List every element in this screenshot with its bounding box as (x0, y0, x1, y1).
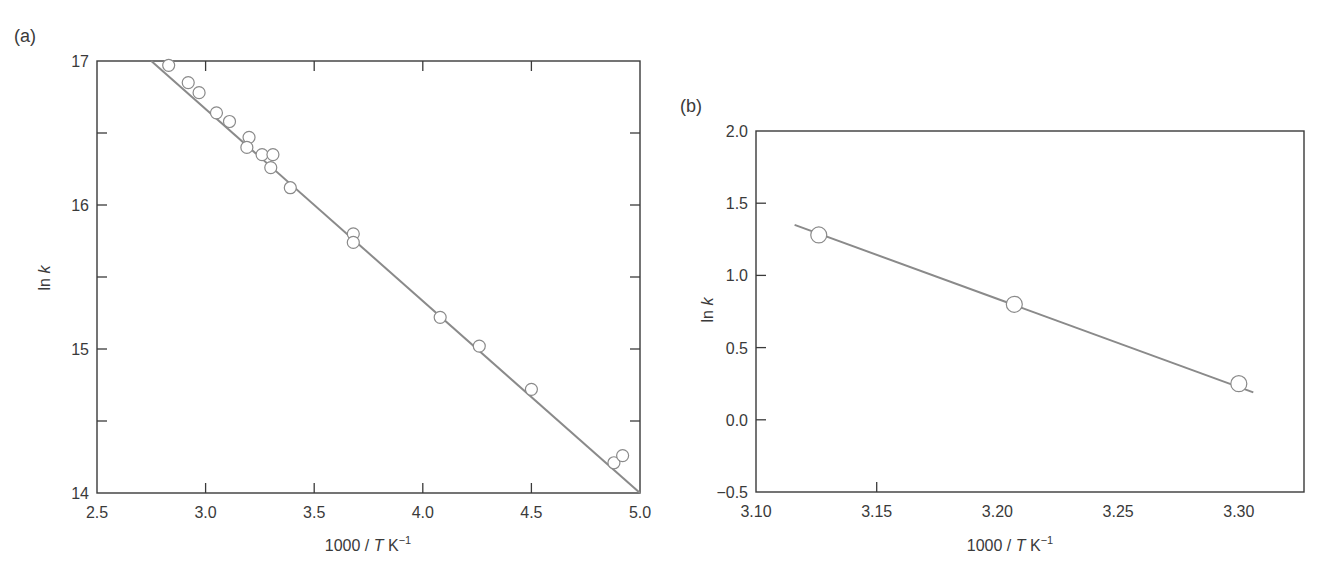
y-tick-label: 2.0 (726, 123, 748, 140)
data-point (1006, 296, 1022, 312)
data-point (284, 182, 296, 194)
y-tick-label: 17 (71, 53, 89, 70)
data-point (193, 87, 205, 99)
data-point (163, 59, 175, 71)
y-tick-label: 1.0 (726, 267, 748, 284)
y-tick-label: 1.5 (726, 195, 748, 212)
data-point (241, 141, 253, 153)
x-tick-label: 2.5 (86, 504, 108, 521)
data-point (617, 450, 629, 462)
data-point (525, 383, 537, 395)
data-point (182, 77, 194, 89)
x-tick-label: 4.5 (520, 504, 542, 521)
fit-line (795, 225, 1254, 393)
y-tick-label: 0.0 (726, 412, 748, 429)
data-point (210, 107, 222, 119)
x-tick-label: 5.0 (629, 504, 651, 521)
x-tick-label: 3.5 (303, 504, 325, 521)
data-point (811, 227, 827, 243)
panel-label-b: (b) (680, 96, 702, 116)
x-tick-label: 3.0 (194, 504, 216, 521)
data-point (256, 149, 268, 161)
panel-label-a: (a) (14, 26, 36, 46)
x-axis-title-b: 1000 / T K−1 (967, 534, 1053, 554)
y-axis-title-a: ln k (36, 265, 53, 291)
chart-panel-a: (a) 2.53.03.54.04.55.014151617 1000 / T … (14, 26, 651, 554)
y-tick-label: 16 (71, 197, 89, 214)
x-axis-title-a: 1000 / T K−1 (325, 534, 411, 554)
x-tick-label: 3.10 (740, 503, 771, 520)
axes-frame (97, 61, 640, 493)
data-point (473, 340, 485, 352)
data-point (223, 115, 235, 127)
plot-area-b: 3.103.153.203.253.30−0.50.00.51.01.52.0 (716, 123, 1304, 520)
x-tick-label: 3.15 (861, 503, 892, 520)
data-point (265, 162, 277, 174)
y-axis-title-b: ln k (699, 297, 716, 323)
data-point (267, 149, 279, 161)
chart-panel-b: (b) 3.103.153.203.253.30−0.50.00.51.01.5… (680, 96, 1304, 554)
y-tick-label: 15 (71, 341, 89, 358)
x-tick-label: 4.0 (412, 504, 434, 521)
x-tick-label: 3.25 (1103, 503, 1134, 520)
data-point (347, 236, 359, 248)
data-point (1231, 376, 1247, 392)
y-tick-label: 14 (71, 485, 89, 502)
y-tick-label: −0.5 (716, 484, 748, 501)
x-tick-label: 3.20 (982, 503, 1013, 520)
x-tick-label: 3.30 (1223, 503, 1254, 520)
plot-area-a: 2.53.03.54.04.55.014151617 (71, 53, 651, 521)
y-tick-label: 0.5 (726, 340, 748, 357)
figure: (a) 2.53.03.54.04.55.014151617 1000 / T … (0, 0, 1325, 584)
data-point (434, 311, 446, 323)
